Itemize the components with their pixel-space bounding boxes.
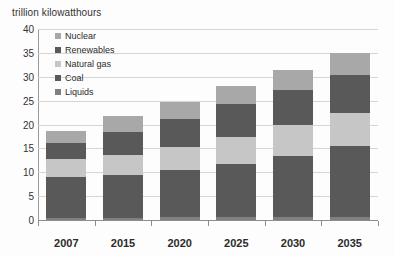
bar-segment-nuclear[interactable] [160, 102, 200, 119]
legend-swatch-icon [55, 89, 61, 95]
bar-segment-coal[interactable] [330, 146, 370, 217]
y-tick-label: 0 [2, 215, 34, 226]
bar-segment-nuclear[interactable] [103, 116, 143, 132]
bar-segment-liquids[interactable] [103, 218, 143, 220]
bar-segment-liquids[interactable] [273, 217, 313, 220]
bar-segment-liquids[interactable] [330, 217, 370, 220]
chart-legend: NuclearRenewablesNatural gasCoalLiquids [55, 29, 150, 99]
y-tick-label: 40 [2, 24, 34, 35]
legend-label: Liquids [65, 88, 94, 97]
legend-swatch-icon [55, 47, 61, 53]
y-tick-label: 5 [2, 191, 34, 202]
y-axis-unit-title: trillion kilowatthours [12, 7, 101, 18]
legend-item-natural-gas[interactable]: Natural gas [55, 57, 150, 71]
bar-segment-natural-gas[interactable] [46, 159, 86, 177]
x-tick-label: 2007 [54, 237, 78, 249]
legend-label: Renewables [65, 46, 115, 55]
x-tick-label: 2035 [337, 237, 361, 249]
bar-segment-coal[interactable] [160, 170, 200, 217]
y-tick-label: 35 [2, 47, 34, 58]
y-tick-label: 20 [2, 119, 34, 130]
legend-swatch-icon [55, 75, 61, 81]
bar-group[interactable] [160, 29, 200, 220]
bar-segment-natural-gas[interactable] [216, 137, 256, 164]
y-tick-label: 30 [2, 71, 34, 82]
bar-segment-coal[interactable] [216, 164, 256, 217]
y-tick-label: 15 [2, 143, 34, 154]
y-tick-label: 25 [2, 95, 34, 106]
x-tick-label: 2020 [167, 237, 191, 249]
bar-segment-renewables[interactable] [46, 143, 86, 159]
legend-item-coal[interactable]: Coal [55, 71, 150, 85]
bar-segment-nuclear[interactable] [216, 86, 256, 105]
legend-swatch-icon [55, 61, 61, 67]
legend-swatch-icon [55, 33, 61, 39]
bar-stack [273, 70, 313, 220]
bar-stack [160, 102, 200, 220]
bar-stack [216, 86, 256, 220]
x-tick-label: 2025 [224, 237, 248, 249]
bar-segment-liquids[interactable] [216, 217, 256, 220]
bar-segment-natural-gas[interactable] [160, 147, 200, 170]
bar-segment-renewables[interactable] [330, 75, 370, 112]
bar-segment-coal[interactable] [103, 175, 143, 218]
x-tick [378, 221, 379, 226]
legend-item-nuclear[interactable]: Nuclear [55, 29, 150, 43]
bar-group[interactable] [330, 29, 370, 220]
legend-item-renewables[interactable]: Renewables [55, 43, 150, 57]
bar-group[interactable] [216, 29, 256, 220]
y-tick-label: 10 [2, 167, 34, 178]
bar-segment-natural-gas[interactable] [103, 155, 143, 175]
y-axis-tick-labels: 0510152025303540 [0, 29, 34, 220]
bar-segment-liquids[interactable] [160, 217, 200, 220]
bar-segment-natural-gas[interactable] [273, 125, 313, 155]
x-tick-label: 2015 [111, 237, 135, 249]
bar-stack [103, 116, 143, 220]
bar-segment-coal[interactable] [273, 156, 313, 217]
bar-stack [46, 131, 86, 220]
x-tick-label: 2030 [281, 237, 305, 249]
legend-label: Coal [65, 74, 84, 83]
bar-segment-nuclear[interactable] [273, 70, 313, 90]
bar-stack [330, 53, 370, 220]
legend-item-liquids[interactable]: Liquids [55, 85, 150, 99]
bar-segment-renewables[interactable] [273, 90, 313, 125]
x-axis-labels: 200720152020202520302035 [38, 221, 378, 251]
bar-segment-coal[interactable] [46, 177, 86, 218]
legend-label: Nuclear [65, 32, 96, 41]
legend-label: Natural gas [65, 60, 111, 69]
bar-segment-natural-gas[interactable] [330, 113, 370, 146]
bar-segment-liquids[interactable] [46, 218, 86, 220]
chart-container: trillion kilowatthours 0510152025303540 … [0, 0, 395, 257]
bar-segment-renewables[interactable] [160, 119, 200, 147]
bar-segment-renewables[interactable] [103, 132, 143, 155]
bar-segment-renewables[interactable] [216, 104, 256, 136]
bar-group[interactable] [273, 29, 313, 220]
bar-segment-nuclear[interactable] [330, 53, 370, 75]
bar-segment-nuclear[interactable] [46, 131, 86, 143]
